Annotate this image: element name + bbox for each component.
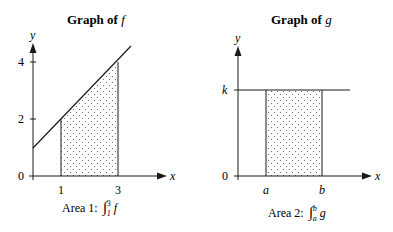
f-x-axis-arrow-icon xyxy=(157,173,167,180)
g-y-label: y xyxy=(234,31,241,45)
g-y-tick-0: 0 xyxy=(222,169,228,183)
area-2-caption: Area 2: ∫abg xyxy=(268,204,326,223)
graph-g-title: Graph of g xyxy=(271,12,332,27)
g-x-tick-b: b xyxy=(319,183,325,197)
g-y-tick-k: k xyxy=(222,83,228,97)
graph-g: Graph of g y x k 0 a b Area 2: ∫abg xyxy=(222,12,381,223)
g-y-axis-arrow-icon xyxy=(235,46,242,56)
f-y-tick-2: 2 xyxy=(18,112,24,126)
g-x-tick-a: a xyxy=(263,183,269,197)
f-y-axis-arrow-icon xyxy=(30,43,37,53)
f-y-tick-4: 4 xyxy=(18,55,24,69)
g-x-label: x xyxy=(374,169,381,183)
area-1-shading xyxy=(61,62,118,176)
graph-f: Graph of f y x 4 2 0 1 3 Area 1: ∫13f xyxy=(18,12,176,218)
f-y-tick-0: 0 xyxy=(18,169,24,183)
g-x-axis-arrow-icon xyxy=(362,173,372,180)
figure: Graph of f y x 4 2 0 1 3 Area 1: ∫13f Gr… xyxy=(0,0,393,232)
graph-f-title: Graph of f xyxy=(67,12,127,27)
f-x-tick-1: 1 xyxy=(58,183,64,197)
area-1-caption: Area 1: ∫13f xyxy=(62,199,119,218)
f-x-label: x xyxy=(169,169,176,183)
f-y-label: y xyxy=(29,28,36,42)
f-x-tick-3: 3 xyxy=(115,183,121,197)
area-2-shading xyxy=(266,90,322,176)
